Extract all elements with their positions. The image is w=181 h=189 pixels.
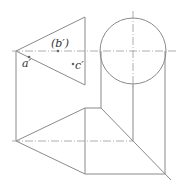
point-c-prime [72,63,75,66]
point-b-prime [57,50,60,53]
label-c-prime: c′ [75,60,84,71]
label-a-prime: a′ [22,58,31,69]
mitre-line [101,108,171,180]
projection-drawing [0,0,181,189]
label-b-prime: (b′) [51,38,69,49]
